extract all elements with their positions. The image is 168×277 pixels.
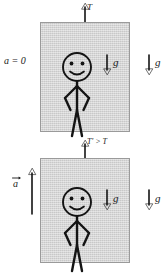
gravity-label-outside: g bbox=[155, 193, 161, 204]
gravity-label-outside: g bbox=[155, 57, 161, 68]
stick-figure-person bbox=[52, 52, 108, 138]
elevator-physics-diagram: T a = 0 bbox=[0, 0, 168, 277]
eye-right-icon bbox=[81, 62, 85, 66]
eye-right-icon bbox=[81, 197, 85, 201]
eye-left-icon bbox=[70, 62, 74, 66]
tension-prime-label: T' > T bbox=[87, 138, 107, 146]
gravity-arrow-inside-icon bbox=[102, 189, 112, 211]
acceleration-arrow-up-icon bbox=[27, 167, 37, 215]
stick-figure-person bbox=[52, 187, 108, 273]
acceleration-vector-label: a bbox=[13, 179, 18, 189]
gravity-arrow-outside-icon bbox=[144, 54, 154, 76]
eye-left-icon bbox=[70, 197, 74, 201]
tension-label: T bbox=[87, 3, 92, 12]
gravity-arrow-inside-icon bbox=[102, 54, 112, 76]
smile-icon bbox=[70, 207, 84, 210]
panel-elevator-accelerating-up: T' > T a bbox=[0, 137, 168, 277]
gravity-arrow-outside-icon bbox=[144, 189, 154, 211]
gravity-label-inside: g bbox=[113, 193, 119, 204]
smile-icon bbox=[70, 72, 84, 75]
panel-elevator-at-rest: T a = 0 bbox=[0, 0, 168, 140]
gravity-label-inside: g bbox=[113, 57, 119, 68]
acceleration-zero-label: a = 0 bbox=[4, 56, 26, 66]
